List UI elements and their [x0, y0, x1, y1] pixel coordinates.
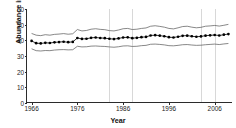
- data-point-marker: [39, 42, 42, 45]
- y-tick-mark: [25, 72, 28, 73]
- x-tick-label: 2006: [208, 105, 222, 112]
- data-point-marker: [81, 38, 84, 41]
- x-axis-title: Year: [0, 116, 236, 125]
- data-point-marker: [213, 34, 216, 37]
- x-tick-label: 1996: [162, 105, 176, 112]
- data-point-marker: [222, 33, 225, 36]
- y-tick-mark: [25, 103, 28, 104]
- y-tick-mark: [25, 25, 28, 26]
- y-tick-label: 20: [17, 68, 24, 75]
- data-point-marker: [94, 36, 97, 39]
- data-point-marker: [122, 36, 125, 39]
- data-point-marker: [163, 35, 166, 38]
- data-point-marker: [30, 40, 33, 43]
- series-line: [32, 24, 229, 35]
- data-point-marker: [113, 38, 116, 41]
- data-point-marker: [99, 37, 102, 40]
- data-point-marker: [90, 36, 93, 39]
- data-point-marker: [136, 36, 139, 39]
- data-series-layer: [27, 9, 232, 102]
- data-point-marker: [67, 41, 70, 44]
- y-tick-label: 50: [17, 21, 24, 28]
- data-point-marker: [227, 33, 230, 36]
- data-point-marker: [172, 36, 175, 39]
- data-point-marker: [44, 41, 47, 44]
- data-point-marker: [154, 34, 157, 37]
- data-point-marker: [218, 34, 221, 37]
- data-point-marker: [62, 40, 65, 43]
- data-point-marker: [126, 36, 129, 39]
- y-tick-label: 60: [17, 6, 24, 13]
- data-point-marker: [117, 37, 120, 40]
- data-point-marker: [181, 34, 184, 37]
- data-point-marker: [177, 35, 180, 38]
- data-point-marker: [149, 34, 152, 37]
- data-point-marker: [131, 37, 134, 40]
- plot-area: 0102030405060 19661976198619962006: [26, 9, 232, 103]
- data-point-marker: [76, 37, 79, 40]
- y-tick-label: 0: [20, 100, 24, 107]
- data-point-marker: [186, 34, 189, 37]
- data-point-marker: [195, 35, 198, 38]
- y-tick-label: 10: [17, 84, 24, 91]
- plot-inner: [27, 9, 232, 102]
- y-tick-mark: [25, 56, 28, 57]
- data-point-marker: [53, 41, 56, 44]
- data-point-marker: [108, 37, 111, 40]
- x-tick-label: 1966: [24, 105, 38, 112]
- series-line: [32, 43, 229, 51]
- chart-figure: Abundance index 0102030405060 1966197619…: [0, 0, 236, 128]
- x-tick-label: 1986: [116, 105, 130, 112]
- series-line: [32, 34, 229, 43]
- data-point-marker: [168, 36, 171, 39]
- data-point-marker: [209, 34, 212, 37]
- data-point-marker: [71, 41, 74, 44]
- y-tick-mark: [25, 9, 28, 10]
- data-point-marker: [204, 34, 207, 37]
- data-point-marker: [58, 41, 61, 44]
- data-point-marker: [85, 37, 88, 40]
- y-tick-label: 40: [17, 37, 24, 44]
- data-point-marker: [158, 34, 161, 37]
- x-tick-label: 1976: [70, 105, 84, 112]
- y-tick-label: 30: [17, 53, 24, 60]
- data-point-marker: [49, 42, 52, 45]
- y-tick-mark: [25, 87, 28, 88]
- y-tick-mark: [25, 40, 28, 41]
- data-point-marker: [140, 36, 143, 39]
- data-point-marker: [145, 36, 148, 39]
- data-point-marker: [35, 42, 38, 45]
- data-point-marker: [190, 35, 193, 38]
- data-point-marker: [103, 37, 106, 40]
- data-point-marker: [200, 35, 203, 38]
